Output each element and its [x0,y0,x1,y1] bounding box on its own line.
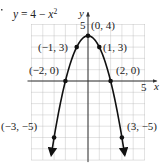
y-tick-label-5: 5 [80,19,86,31]
point-label-3-neg5: (3, −5) [127,120,157,133]
point-label-neg3-neg5: (−3, −5) [1,120,38,133]
axes [28,13,157,163]
data-point [74,45,79,50]
data-point [63,79,68,84]
data-point [86,34,91,39]
point-label-neg2-0: (−2, 0) [29,64,59,77]
y-axis-label: y [78,7,84,19]
data-point [52,135,57,140]
data-point [97,45,102,50]
data-point [108,79,113,84]
point-label-0-4: (0, 4) [91,19,115,32]
point-label-2-0: (2, 0) [116,64,140,77]
x-axis-label: x [153,80,159,92]
equation-title: y = 4 − x2 [12,7,57,21]
data-point [120,135,125,140]
corner-mark [1,9,3,11]
point-label-1-3: (1, 3) [103,41,127,54]
point-label-neg1-3: (−1, 3) [38,41,68,54]
x-tick-label-5: 5 [141,81,147,93]
parabola-graph: y = 4 − x2 y x 5 5 (0, 4) (−1, 3) (1, 3)… [0,0,164,168]
